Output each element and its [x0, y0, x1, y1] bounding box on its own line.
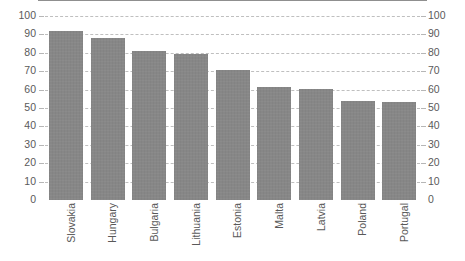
- y-axis-right-tick-label: 10: [428, 176, 440, 187]
- y-axis-tick-mark: [39, 145, 44, 146]
- bar[interactable]: [216, 70, 250, 200]
- x-axis-category-label: Poland: [357, 203, 368, 236]
- y-axis-right-tick-label: 40: [428, 120, 440, 131]
- x-axis-category-label: Slovakia: [66, 203, 77, 243]
- y-axis-tick-mark: [421, 108, 426, 109]
- x-axis-category-label-slot: Hungary: [87, 201, 129, 259]
- y-axis-tick-mark: [421, 16, 426, 17]
- x-axis-category-label: Portugal: [399, 203, 410, 242]
- x-axis-category-label-slot: Lithuania: [170, 201, 212, 259]
- y-axis-left-tick-label: 20: [24, 157, 36, 168]
- bar[interactable]: [299, 89, 333, 200]
- y-axis-left-tick-label: 30: [24, 139, 36, 150]
- y-axis-right-tick-label: 70: [428, 65, 440, 76]
- x-axis-category-label: Lithuania: [191, 203, 202, 246]
- bar[interactable]: [174, 54, 208, 200]
- y-axis-left-tick-label: 40: [24, 120, 36, 131]
- bar-chart: 1009080706050403020100 10090807060504030…: [0, 0, 465, 261]
- x-axis-category-label-slot: Malta: [253, 201, 295, 259]
- y-axis-tick-mark: [421, 126, 426, 127]
- bar[interactable]: [132, 51, 166, 200]
- y-axis-tick-mark: [421, 71, 426, 72]
- y-axis-left-tick-label: 100: [18, 10, 36, 21]
- bar[interactable]: [257, 87, 291, 200]
- y-axis-right-tickmarks: [420, 0, 426, 261]
- y-axis-right-tick-label: 20: [428, 157, 440, 168]
- y-axis-right-tick-label: 50: [428, 102, 440, 113]
- y-axis-left-tick-label: 70: [24, 65, 36, 76]
- x-axis-category-label: Estonia: [232, 203, 243, 238]
- x-axis-category-label-slot: Bulgaria: [128, 201, 170, 259]
- bar[interactable]: [91, 38, 125, 200]
- x-axis-category-label: Bulgaria: [149, 203, 160, 242]
- x-axis-line: [38, 0, 427, 1]
- x-axis-category-label-slot: Poland: [337, 201, 379, 259]
- y-axis-left-tick-label: 0: [30, 194, 36, 205]
- y-axis-right-tick-label: 60: [428, 84, 440, 95]
- y-axis-right-tick-label: 90: [428, 28, 440, 39]
- y-axis-tick-mark: [39, 182, 44, 183]
- y-axis-tick-mark: [39, 71, 44, 72]
- x-axis-category-labels: SlovakiaHungaryBulgariaLithuaniaEstoniaM…: [45, 201, 420, 261]
- y-axis-tick-mark: [421, 34, 426, 35]
- x-axis-category-label: Hungary: [107, 203, 118, 243]
- y-axis-right-tick-label: 80: [428, 47, 440, 58]
- x-axis-category-label: Malta: [274, 203, 285, 229]
- y-axis-right-tick-label: 30: [428, 139, 440, 150]
- y-axis-tick-mark: [39, 90, 44, 91]
- x-axis-category-label-slot: Slovakia: [45, 201, 87, 259]
- y-axis-tick-mark: [39, 126, 44, 127]
- y-axis-left-tick-label: 10: [24, 176, 36, 187]
- y-axis-tick-mark: [39, 163, 44, 164]
- x-axis-category-label-slot: Estonia: [212, 201, 254, 259]
- x-axis-category-label-slot: Portugal: [378, 201, 420, 259]
- y-axis-left-tick-label: 90: [24, 28, 36, 39]
- y-axis-tick-mark: [39, 34, 44, 35]
- y-axis-tick-mark: [421, 182, 426, 183]
- y-axis-right-tick-label: 0: [428, 194, 434, 205]
- y-axis-tick-mark: [421, 53, 426, 54]
- y-axis-left: 1009080706050403020100: [2, 0, 36, 261]
- x-axis-category-label-slot: Latvia: [295, 201, 337, 259]
- bar[interactable]: [49, 31, 83, 200]
- y-axis-tick-mark: [421, 145, 426, 146]
- y-axis-tick-mark: [421, 163, 426, 164]
- y-axis-right-tick-label: 100: [428, 10, 446, 21]
- y-axis-tick-mark: [39, 53, 44, 54]
- y-axis-left-tick-label: 50: [24, 102, 36, 113]
- y-axis-tick-mark: [39, 108, 44, 109]
- bar[interactable]: [341, 101, 375, 200]
- x-axis-category-label: Latvia: [316, 203, 327, 231]
- y-axis-tick-mark: [421, 90, 426, 91]
- y-axis-tick-mark: [39, 16, 44, 17]
- y-axis-right: 1009080706050403020100: [428, 0, 462, 261]
- y-axis-left-tick-label: 80: [24, 47, 36, 58]
- bar[interactable]: [382, 102, 416, 200]
- y-axis-left-tick-label: 60: [24, 84, 36, 95]
